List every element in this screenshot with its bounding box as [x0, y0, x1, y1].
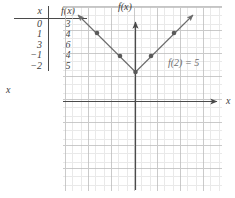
cell-x: 0	[14, 18, 49, 29]
graph-svg	[63, 6, 222, 191]
function-annotation: f(2) = 5	[168, 57, 199, 68]
data-point	[95, 31, 100, 36]
cell-x: −1	[14, 50, 49, 61]
cell-x: −2	[14, 61, 49, 72]
curve-left-ray	[78, 15, 136, 72]
data-point	[133, 70, 138, 75]
column-header-x: x	[14, 6, 49, 18]
left-axis-letter: x	[6, 84, 10, 95]
y-axis-label: f(x)	[118, 1, 132, 12]
data-point	[118, 54, 123, 59]
data-point	[172, 31, 177, 36]
figure-canvas: x f(x) 0 3 1 4 3 6 −1 4	[0, 0, 235, 198]
graph-plate	[63, 6, 222, 191]
cell-x: 1	[14, 29, 49, 40]
x-axis-label: x	[226, 95, 230, 106]
data-point	[149, 54, 154, 59]
